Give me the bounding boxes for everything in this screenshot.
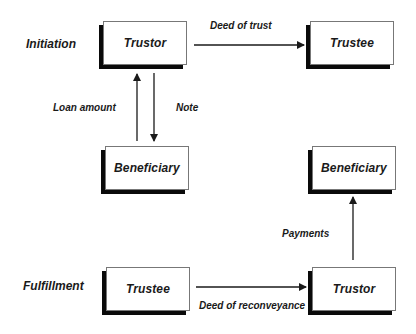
node-beneficiary-initiation: Beneficiary (105, 146, 189, 190)
node-trustee-fulfillment: Trustee (106, 267, 190, 311)
node-label: Beneficiary (114, 161, 180, 175)
edge-label-deed-of-reconveyance: Deed of reconveyance (199, 300, 305, 311)
diagram-canvas: Initiation Fulfillment Trustor Trustee B… (0, 0, 416, 334)
node-label: Trustor (333, 282, 375, 296)
node-label: Beneficiary (321, 161, 387, 175)
node-trustor-fulfillment: Trustor (312, 267, 396, 311)
node-label: Trustee (330, 36, 374, 50)
edge-label-deed-of-trust: Deed of trust (210, 20, 272, 31)
node-beneficiary-fulfillment: Beneficiary (312, 146, 396, 190)
node-label: Trustee (126, 282, 170, 296)
node-trustee-initiation: Trustee (310, 21, 394, 65)
phase-label-fulfillment: Fulfillment (23, 279, 84, 293)
node-label: Trustor (124, 36, 166, 50)
phase-label-initiation: Initiation (26, 37, 76, 51)
node-trustor-initiation: Trustor (103, 21, 187, 65)
edge-label-loan-amount: Loan amount (53, 102, 116, 113)
edge-label-payments: Payments (282, 228, 329, 239)
edge-label-note: Note (176, 102, 198, 113)
